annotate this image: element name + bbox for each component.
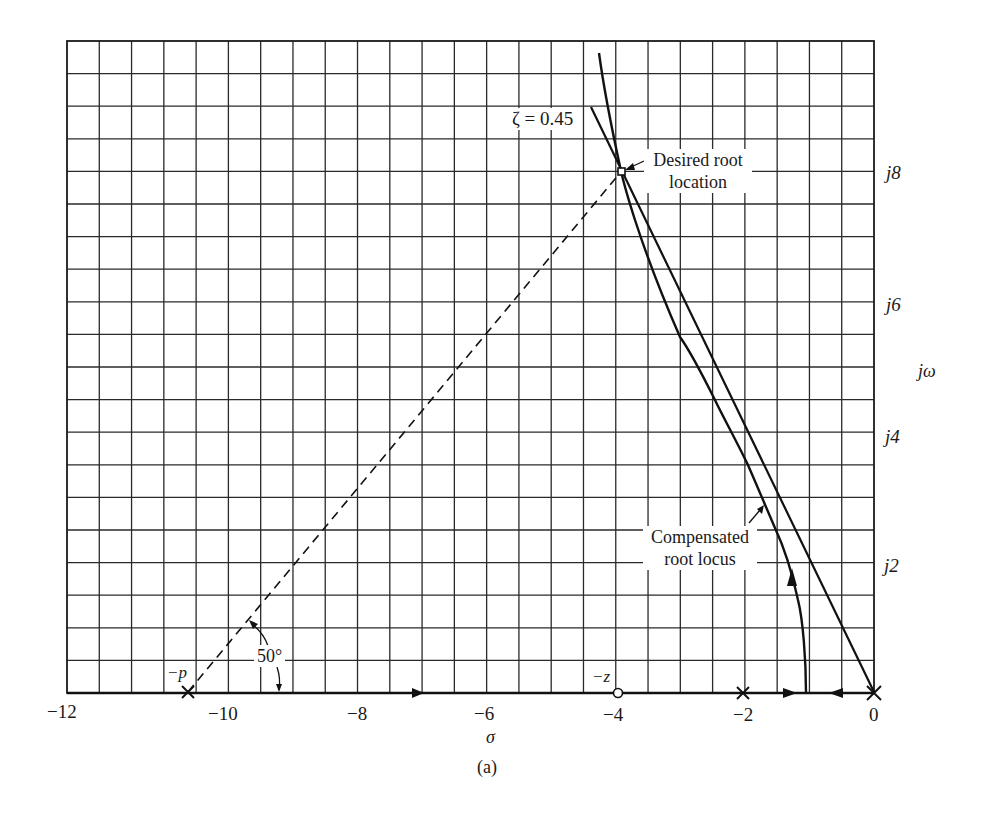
y-axis-label: jω [918,362,936,380]
x-tick-neg8: −8 [347,704,367,723]
x-tick-neg6: −6 [474,704,494,723]
y-tick-j8: j8 [886,163,901,182]
angle-label: 50° [254,645,285,667]
zero-label-z: −z [592,668,610,685]
zeta-label: ζ = 0.45 [510,108,575,130]
desired-root-label-line1: Desired root [648,149,748,171]
arrow-left-icon [829,688,843,698]
pole-label-p: −p [167,664,187,681]
figure-caption: (a) [477,758,497,776]
arrow-up-icon [787,568,797,586]
y-tick-j6: j6 [886,295,901,314]
arrow-icon [625,163,635,170]
arrow-icon [276,684,282,692]
compensated-label-line2: root locus [647,548,753,570]
zero-marker-z [614,689,623,698]
root-locus-plot [0,0,992,822]
desired-root-marker [618,168,625,175]
x-axis-label: σ [486,728,495,746]
y-tick-j2: j2 [884,556,899,575]
x-tick-neg4: −4 [603,705,623,724]
x-tick-neg12: −12 [47,702,77,721]
grid-lines [67,41,874,693]
y-tick-j4: j4 [885,427,900,446]
desired-root-label: Desired root location [644,149,752,193]
compensated-locus-label: Compensated root locus [643,526,757,570]
compensated-label-line1: Compensated [647,526,753,548]
x-tick-0: 0 [869,705,879,724]
x-tick-neg2: −2 [733,705,753,724]
x-tick-neg10: −10 [208,704,238,723]
desired-root-label-line2: location [648,171,748,193]
compensated-leader [749,510,760,523]
arrow-right-icon [783,688,797,698]
